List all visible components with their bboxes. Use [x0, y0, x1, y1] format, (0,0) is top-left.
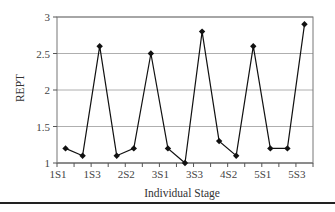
- x-tick-label: 1S3: [84, 168, 102, 180]
- diamond-marker-icon: [62, 145, 68, 151]
- y-axis: 11.522.53: [36, 11, 57, 169]
- x-tick-label: 3S1: [152, 168, 169, 180]
- x-axis: 1S11S32S23S13S34S25S15S3: [49, 163, 313, 180]
- x-axis-title: Individual Stage: [144, 187, 220, 200]
- diamond-marker-icon: [267, 145, 273, 151]
- gridlines: [57, 17, 313, 163]
- x-tick-label: 3S3: [186, 168, 204, 180]
- y-tick-label: 1.5: [36, 121, 50, 133]
- diamond-marker-icon: [301, 21, 307, 27]
- rept-line-chart: 11.522.53 1S11S32S23S13S34S25S15S3 REPT …: [0, 0, 335, 212]
- y-axis-title: REPT: [14, 74, 26, 102]
- x-tick-label: 5S3: [288, 168, 306, 180]
- x-tick-label: 5S1: [254, 168, 271, 180]
- diamond-marker-icon: [131, 145, 137, 151]
- data-markers: [62, 21, 307, 166]
- diamond-marker-icon: [79, 153, 85, 159]
- diamond-marker-icon: [250, 43, 256, 49]
- y-tick-label: 2.5: [36, 48, 50, 60]
- bottom-rule: [0, 202, 335, 204]
- diamond-marker-icon: [199, 28, 205, 34]
- diamond-marker-icon: [114, 153, 120, 159]
- y-tick-label: 2: [45, 84, 51, 96]
- x-tick-label: 4S2: [220, 168, 237, 180]
- x-tick-label: 2S2: [118, 168, 135, 180]
- diamond-marker-icon: [284, 145, 290, 151]
- x-tick-label: 1S1: [49, 168, 66, 180]
- diamond-marker-icon: [148, 50, 154, 56]
- diamond-marker-icon: [96, 43, 102, 49]
- y-tick-label: 3: [45, 11, 51, 23]
